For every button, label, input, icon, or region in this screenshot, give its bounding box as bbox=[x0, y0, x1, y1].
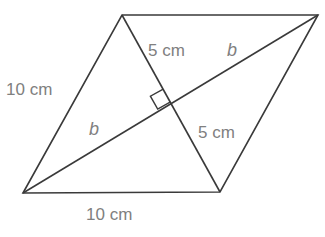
geometry-figure: 10 cm 10 cm 5 cm 5 cm b b bbox=[0, 0, 325, 237]
label-diagonal-lower: b bbox=[89, 120, 99, 138]
label-side-bottom: 10 cm bbox=[86, 206, 132, 223]
geometry-canvas bbox=[0, 0, 325, 237]
label-height-top: 5 cm bbox=[148, 42, 185, 59]
label-diagonal-upper: b bbox=[227, 41, 237, 59]
label-side-left: 10 cm bbox=[6, 81, 52, 98]
label-height-bottom: 5 cm bbox=[198, 124, 235, 141]
